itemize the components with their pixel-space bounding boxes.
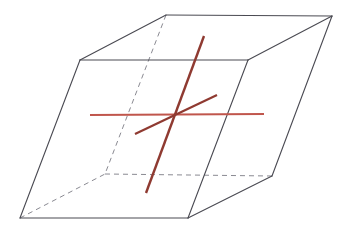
figure-root <box>0 0 352 236</box>
parallelepiped-diagram <box>0 0 352 236</box>
